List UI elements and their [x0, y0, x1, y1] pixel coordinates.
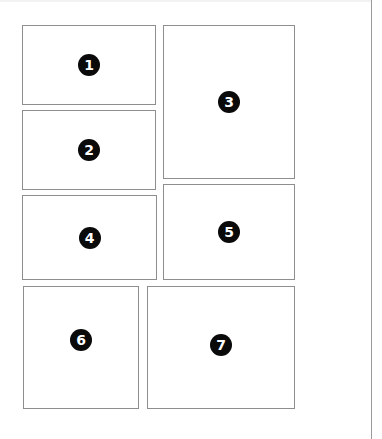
number-badge-6: 6	[70, 329, 92, 351]
number-badge-1: 1	[78, 54, 100, 76]
panel-4: 4	[22, 195, 157, 280]
panel-5: 5	[163, 184, 295, 280]
panel-1: 1	[22, 25, 156, 105]
page-top-edge	[0, 0, 371, 2]
panel-3: 3	[163, 25, 295, 179]
panel-2: 2	[22, 110, 156, 190]
number-badge-2: 2	[78, 139, 100, 161]
page-right-edge	[371, 0, 372, 439]
panel-7: 7	[147, 286, 295, 409]
number-badge-7: 7	[210, 334, 232, 356]
number-badge-5: 5	[218, 221, 240, 243]
number-badge-4: 4	[79, 227, 101, 249]
panel-6: 6	[23, 286, 139, 409]
number-badge-3: 3	[218, 91, 240, 113]
